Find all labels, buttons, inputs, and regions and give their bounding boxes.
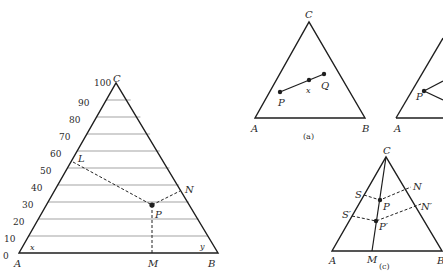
vertex-a-label: A	[13, 258, 21, 269]
panel-c-caption: (c)	[379, 262, 390, 271]
spn-dashed-line	[364, 187, 411, 200]
vertex-c-label: C	[113, 73, 121, 84]
point-p	[149, 202, 154, 207]
svg-text:10: 10	[4, 234, 16, 244]
vertex-c-label: C	[383, 145, 391, 156]
point-p-prime	[374, 219, 378, 223]
svg-text:0: 0	[3, 251, 9, 261]
point-p-label: P	[277, 97, 285, 108]
svg-text:80: 80	[69, 115, 81, 125]
panel-b-upper-line	[424, 81, 443, 91]
point-p-label: P	[382, 201, 390, 212]
point-n-prime-label: N′	[420, 201, 433, 212]
point-q	[322, 72, 326, 76]
point-x-label: x	[306, 86, 311, 95]
y-label: y	[199, 242, 205, 251]
point-p-label: P	[154, 209, 162, 220]
panel-b-lower-line	[424, 91, 443, 100]
point-m-label: M	[147, 258, 159, 269]
point-n-label: N	[184, 184, 195, 195]
point-l-label: L	[77, 153, 85, 164]
lpn-dashed-line	[73, 162, 180, 205]
pq-segment	[280, 74, 324, 92]
point-n-label: N	[412, 181, 423, 192]
panel-b-diagram: P A	[393, 38, 443, 134]
grid-lines	[29, 100, 209, 236]
svg-text:100: 100	[94, 78, 111, 88]
ternary-diagrams-figure: 0 10 20 30 40 50 60 70 80 90 100 C A B M…	[0, 0, 443, 280]
svg-text:20: 20	[13, 217, 25, 227]
vertex-c-label: C	[305, 9, 313, 20]
svg-text:50: 50	[40, 166, 52, 176]
panel-a-triangle	[255, 22, 365, 118]
point-p-prime-label: P′	[378, 221, 389, 232]
point-s-label: S	[355, 189, 362, 200]
point-p	[278, 90, 282, 94]
main-ternary-diagram: 0 10 20 30 40 50 60 70 80 90 100 C A B M…	[3, 73, 218, 269]
svg-text:30: 30	[22, 200, 34, 210]
svg-text:70: 70	[59, 132, 71, 142]
point-x	[307, 78, 311, 82]
panel-c-diagram: C A B M S S′ N N′ P P′ (c)	[328, 145, 443, 271]
panel-a-diagram: C A B P x Q (a)	[250, 9, 369, 141]
axis-tick-labels: 0 10 20 30 40 50 60 70 80 90 100	[3, 78, 111, 261]
panel-a-caption: (a)	[303, 132, 314, 141]
point-m-label: M	[366, 254, 378, 265]
svg-text:60: 60	[50, 149, 62, 159]
vertex-b-label: B	[361, 123, 369, 134]
svg-text:90: 90	[78, 98, 90, 108]
panel-b-left-edge	[396, 38, 443, 118]
vertex-a-label: A	[393, 123, 401, 134]
point-s-prime-label: S′	[342, 209, 352, 220]
point-p	[378, 198, 382, 202]
point-q-label: Q	[321, 80, 329, 91]
vertex-a-label: A	[250, 123, 258, 134]
vertex-b-label: B	[436, 255, 443, 266]
vertex-a-label: A	[328, 255, 336, 266]
svg-text:40: 40	[31, 183, 43, 193]
vertex-b-label: B	[207, 258, 215, 269]
x-label: x	[30, 243, 35, 252]
point-p-label: P	[415, 91, 423, 102]
